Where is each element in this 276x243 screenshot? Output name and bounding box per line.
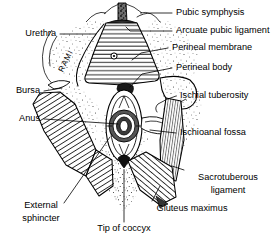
label-tip-of-coccyx: Tip of coccyx xyxy=(97,223,151,233)
anus-opening xyxy=(120,121,128,132)
label-perineal-body: Perineal body xyxy=(176,62,233,72)
label-sacrotuberous-ligament-line2: ligament xyxy=(211,185,246,195)
label-urethra: Urethra xyxy=(25,28,57,38)
label-ischioanal-fossa: Ischioanal fossa xyxy=(180,127,247,137)
label-external-sphincter-line2: sphincter xyxy=(22,213,59,223)
label-perineal-membrane: Perineal membrane xyxy=(172,42,252,52)
label-gluteus-maximus: Gluteus maximus xyxy=(157,203,228,213)
label-pubic-symphysis: Pubic symphysis xyxy=(176,7,245,17)
label-arcuate-pubic-ligament: Arcuate pubic ligament xyxy=(176,25,270,35)
perineum-diagram-canvas: RAMI xyxy=(0,0,276,243)
label-external-sphincter-line1: External xyxy=(24,200,58,210)
label-ischial-tuberosity: Ischial tuberosity xyxy=(180,90,249,100)
label-anus: Anus xyxy=(19,113,40,123)
external-anal-sphincter-structure xyxy=(106,90,142,162)
label-sacrotuberous-ligament-line1: Sacrotuberous xyxy=(198,172,258,182)
label-bursa: Bursa xyxy=(16,85,41,95)
anatomical-figure-perineum: RAMI xyxy=(0,0,276,243)
